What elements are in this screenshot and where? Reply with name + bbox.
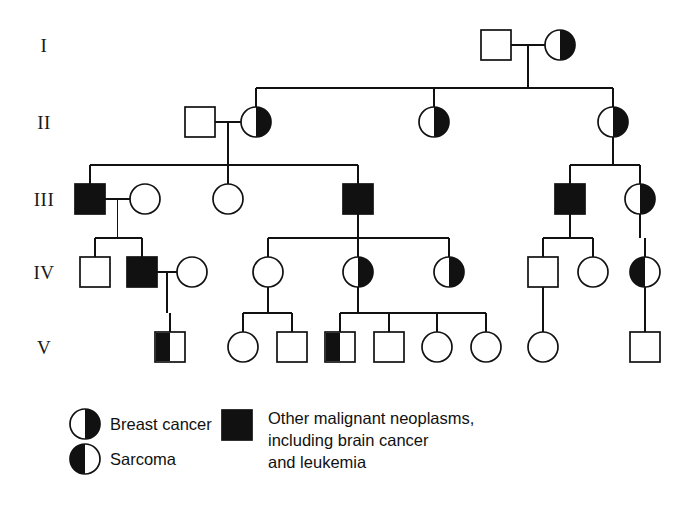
pedigree-node-V-5[interactable] [374,332,404,362]
symbol-square-IV-7 [528,257,558,287]
legend: Breast cancerSarcomaOther malignant neop… [70,409,474,474]
symbol-half-right-I-2 [560,30,575,60]
symbol-half-left-V-4 [326,333,340,361]
symbol-square-V-3 [277,332,307,362]
symbol-half-right-IV-5 [358,257,373,287]
pedigree-node-IV-1[interactable] [80,257,110,287]
symbol-circle-III-2 [130,184,160,214]
pedigree-node-III-3[interactable] [213,184,243,214]
symbol-square-V-9 [630,332,660,362]
pedigree-node-III-5[interactable] [555,184,585,214]
symbol-circle-III-3 [213,184,243,214]
symbol-square-I-1 [481,30,511,60]
pedigree-node-II-3[interactable] [419,107,449,137]
pedigree-node-V-4[interactable] [325,332,355,362]
symbol-square-IV-1 [80,257,110,287]
symbol-square-filled-IV-2 [127,257,157,287]
legend-icon-sarcoma [70,444,100,474]
pedigree-node-II-4[interactable] [598,107,628,137]
symbol-circle-V-6 [422,332,452,362]
pedigree-node-V-3[interactable] [277,332,307,362]
pedigree-node-III-4[interactable] [343,184,373,214]
legend-icon-other-neoplasms [222,410,252,440]
symbol-circle-V-7 [471,332,501,362]
pedigree-node-IV-8[interactable] [578,257,608,287]
pedigree-node-I-1[interactable] [481,30,511,60]
symbol-half-right-IV-6 [449,257,464,287]
symbol-half-right-II-3 [434,107,449,137]
legend-label-other-neoplasms-line1: Other malignant neoplasms, [268,409,474,427]
symbol-circle-IV-8 [578,257,608,287]
symbol-square-II-1 [185,107,215,137]
symbol-half-right-II-2 [256,107,271,137]
pedigree-node-IV-6[interactable] [434,257,464,287]
symbol-square-filled-III-4 [343,184,373,214]
pedigree-node-V-6[interactable] [422,332,452,362]
symbol-half-left-V-1 [156,333,170,361]
symbol-square-filled-III-1 [75,184,105,214]
pedigree-node-II-1[interactable] [185,107,215,137]
legend-label-other-neoplasms-line3: and leukemia [268,453,367,471]
symbol-half-left-IV-9 [630,257,645,287]
pedigree-node-III-2[interactable] [130,184,160,214]
generation-label-I: I [41,35,48,56]
generation-label-III: III [34,189,54,210]
pedigree-node-V-1[interactable] [155,332,185,362]
pedigree-node-IV-4[interactable] [253,257,283,287]
generation-label-II: II [37,112,51,133]
pedigree-node-I-2[interactable] [545,30,575,60]
pedigree-node-II-2[interactable] [241,107,271,137]
generation-label-V: V [37,337,51,358]
symbol-circle-IV-3 [177,257,207,287]
pedigree-figure: IIIIIIIVV Breast cancerSarcomaOther mali… [0,0,697,516]
pedigree-node-IV-5[interactable] [343,257,373,287]
symbol-circle-IV-4 [253,257,283,287]
pedigree-node-IV-2[interactable] [127,257,157,287]
pedigree-node-III-6[interactable] [625,184,655,214]
legend-label-sarcoma: Sarcoma [110,450,177,468]
legend-half-right-breast [85,409,100,439]
pedigree-node-V-7[interactable] [471,332,501,362]
pedigree-node-IV-3[interactable] [177,257,207,287]
pedigree-node-V-9[interactable] [630,332,660,362]
pedigree-node-IV-7[interactable] [528,257,558,287]
pedigree-canvas: IIIIIIIVV Breast cancerSarcomaOther mali… [0,0,697,516]
legend-half-left-sarcoma [70,444,85,474]
symbol-square-filled-III-5 [555,184,585,214]
pedigree-node-IV-9[interactable] [630,257,660,287]
generation-label-IV: IV [33,262,54,283]
pedigree-node-V-8[interactable] [528,332,558,362]
symbol-square-V-5 [374,332,404,362]
generation-labels: IIIIIIIVV [33,35,54,358]
pedigree-node-III-1[interactable] [75,184,105,214]
legend-icon-breast-cancer [70,409,100,439]
symbol-half-right-II-4 [613,107,628,137]
legend-label-breast-cancer: Breast cancer [110,415,212,433]
symbol-half-right-III-6 [640,184,655,214]
symbol-circle-V-2 [228,332,258,362]
legend-label-other-neoplasms-line2: including brain cancer [268,431,429,449]
symbol-circle-V-8 [528,332,558,362]
pedigree-node-V-2[interactable] [228,332,258,362]
